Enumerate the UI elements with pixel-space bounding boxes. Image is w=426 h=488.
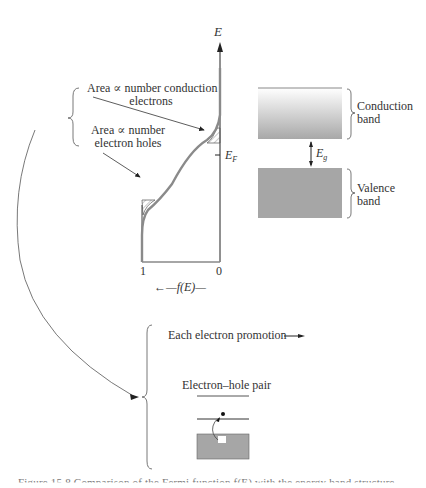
- annotation-brace: [68, 88, 79, 146]
- valence-band: [258, 168, 342, 218]
- x-axis-label: ←—f(E)—: [154, 281, 206, 294]
- conduction-annotation-line2: electrons: [87, 95, 215, 108]
- fermi-level-subscript: F: [232, 155, 237, 164]
- holes-annotation-line2: electron holes: [88, 137, 168, 150]
- conduction-band-label: Conduction band: [357, 100, 413, 126]
- electron-hole-pair-diagram: [197, 396, 249, 459]
- valence-band-label: Valence band: [357, 182, 395, 208]
- promotion-text: Each electron promotion —▸: [168, 329, 308, 342]
- band-gap-label: Eg: [316, 147, 327, 164]
- energy-axis-arrow-icon: [217, 42, 223, 52]
- electron-hole-pair-label: Electron–hole pair: [182, 379, 271, 392]
- band-gap-subscript: g: [323, 153, 327, 162]
- connector-arrow-icon: [130, 394, 139, 400]
- x-tick-zero: 0: [216, 265, 222, 278]
- conduction-brace: [347, 89, 355, 139]
- conduction-label-line2: band: [357, 113, 413, 126]
- energy-axis-label: E: [214, 25, 222, 38]
- electron-icon: [221, 412, 225, 416]
- conduction-electrons-annotation: Area ∝ number conduction electrons: [87, 82, 215, 108]
- holes-annotation-arrow: [103, 153, 140, 177]
- promotion-brace: [142, 325, 152, 469]
- valence-brace: [347, 169, 355, 218]
- diagram-canvas: [0, 0, 426, 488]
- promotion-text-content: Each electron promotion —▸: [168, 329, 308, 342]
- conduction-band: [258, 88, 342, 139]
- conduction-electrons-area: [207, 128, 220, 143]
- hole-icon: [218, 436, 226, 443]
- fermi-level-label: EF: [225, 149, 237, 166]
- valence-label-line2: band: [357, 195, 395, 208]
- band-diagram: [258, 88, 355, 218]
- holes-annotation: Area ∝ number electron holes: [88, 124, 168, 150]
- x-tick-one: 1: [140, 265, 146, 278]
- holes-area: [142, 200, 155, 215]
- fermi-function-plot: [68, 42, 223, 262]
- connector-curve: [17, 130, 135, 397]
